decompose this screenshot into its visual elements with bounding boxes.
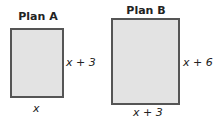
plan-a-title: Plan A	[14, 10, 62, 23]
plan-a-width-label: x	[33, 102, 40, 115]
plan-b-width-label: x + 3	[133, 106, 163, 119]
plan-a-rectangle	[10, 28, 64, 98]
plan-b-height-label: x + 6	[183, 56, 213, 69]
plan-a-height-label: x + 3	[66, 56, 96, 69]
plan-b-rectangle	[111, 18, 180, 105]
plan-b-title: Plan B	[121, 4, 171, 17]
